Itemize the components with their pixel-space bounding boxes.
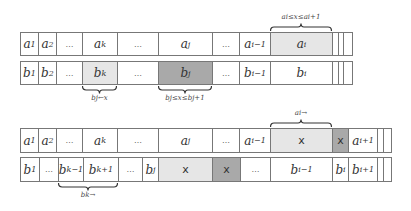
- bottom-brace-icon: [270, 119, 332, 127]
- bottom-row-a-cell: x: [270, 128, 333, 153]
- top-row-b-cell: bj: [158, 61, 213, 85]
- top-row-b-cell: bi: [270, 61, 333, 85]
- bottom-row-a-cell: ai−1: [239, 128, 271, 153]
- top-row-b-cell: bi−1: [239, 61, 271, 85]
- bottom-row-a-cell: [383, 128, 392, 153]
- bottom-brace-label: bk→: [81, 191, 96, 199]
- top-brace-label: ai≤x≤ai+1: [282, 13, 321, 21]
- top-row-a-cell: ak: [82, 32, 118, 56]
- top-row-a-cell: …: [56, 32, 83, 56]
- top-row-a-cell: ai: [270, 32, 333, 56]
- top-row-a-cell: …: [212, 32, 240, 56]
- bottom-row-b-cell: …: [118, 157, 143, 182]
- top-row-b-cell: …: [117, 61, 159, 85]
- bottom-brace-label: ai→: [295, 109, 307, 117]
- bottom-row-b-cell: [383, 157, 392, 182]
- bottom-row-b-cell: bi: [332, 157, 349, 182]
- top-brace-icon: [158, 86, 212, 94]
- bottom-row-a-cell: x: [332, 128, 349, 153]
- bottom-row-b-cell: bk−1: [58, 157, 84, 182]
- bottom-row-b-cell: …: [39, 157, 59, 182]
- bottom-row-b-cell: bk+1: [83, 157, 119, 182]
- top-brace-label: bj←x: [91, 94, 107, 102]
- top-row-b-cell: bk: [82, 61, 118, 85]
- top-row-a-cell: …: [117, 32, 159, 56]
- top-brace-icon: [82, 86, 117, 94]
- bottom-row-a-cell: ak: [82, 128, 118, 153]
- bottom-brace-icon: [58, 183, 118, 191]
- top-brace-icon: [270, 23, 332, 31]
- bottom-row-b-cell: bi−1: [270, 157, 333, 182]
- bottom-row-b-cell: x: [158, 157, 213, 182]
- top-row-a-cell: ai−1: [239, 32, 271, 56]
- top-row-b-cell: …: [56, 61, 83, 85]
- top-row-b-cell: …: [212, 61, 240, 85]
- bottom-row-a-cell: ai+1: [348, 128, 378, 153]
- bottom-row-a-cell: …: [117, 128, 159, 153]
- bottom-row-b-cell: bj: [142, 157, 159, 182]
- top-row-a-cell: a2: [38, 32, 57, 56]
- bottom-row-a-cell: …: [212, 128, 240, 153]
- top-row-a-cell: [343, 32, 353, 56]
- bottom-row-b-cell: b1: [20, 157, 40, 182]
- top-brace-label: bj≤x≤bj+1: [165, 94, 204, 102]
- bottom-row-a-cell: …: [56, 128, 83, 153]
- top-row-b-cell: b1: [20, 61, 39, 85]
- bottom-row-a-cell: a1: [20, 128, 39, 153]
- bottom-row-b-cell: bi+1: [348, 157, 378, 182]
- top-row-a-cell: aj: [158, 32, 213, 56]
- bottom-row-a-cell: a2: [38, 128, 57, 153]
- bottom-row-a-cell: aj: [158, 128, 213, 153]
- top-row-a-cell: a1: [20, 32, 39, 56]
- bottom-row-b-cell: …: [240, 157, 271, 182]
- top-row-b-cell: [343, 61, 353, 85]
- bottom-row-b-cell: x: [212, 157, 241, 182]
- top-row-b-cell: b2: [38, 61, 57, 85]
